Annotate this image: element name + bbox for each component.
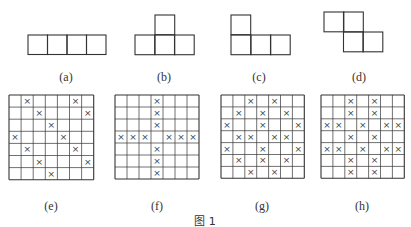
shape-label-b: (b) [157, 70, 171, 85]
x-mark-icon: × [371, 132, 379, 142]
x-mark-icon: × [189, 132, 197, 142]
x-mark-icon: × [283, 132, 291, 142]
x-mark-icon: × [359, 120, 367, 130]
x-mark-icon: × [347, 132, 355, 142]
grid-label-h: (h) [355, 199, 369, 214]
x-mark-icon: × [359, 144, 367, 154]
shape-cell [175, 35, 195, 55]
shape-cell [324, 12, 344, 32]
shape-d [324, 12, 383, 52]
x-mark-icon: × [23, 144, 31, 154]
x-mark-icon: × [153, 168, 161, 178]
shape-b [135, 15, 194, 55]
grid-label-e: (e) [44, 199, 57, 214]
grid-label-g: (g) [255, 199, 269, 214]
x-mark-icon: × [259, 108, 267, 118]
x-mark-icon: × [247, 132, 255, 142]
x-mark-icon: × [235, 132, 243, 142]
x-mark-icon: × [153, 120, 161, 130]
x-mark-icon: × [259, 120, 267, 130]
shape-cell [271, 35, 291, 55]
x-mark-icon: × [35, 108, 43, 118]
shape-cell [48, 35, 68, 55]
shape-cell [28, 35, 48, 55]
grid-h: ×××××××××××××××××××× [321, 95, 404, 178]
x-mark-icon: × [395, 144, 403, 154]
x-mark-icon: × [259, 144, 267, 154]
x-mark-icon: × [335, 120, 343, 130]
x-mark-icon: × [235, 155, 243, 165]
x-mark-icon: × [129, 132, 137, 142]
x-mark-icon: × [165, 132, 173, 142]
x-mark-icon: × [117, 132, 125, 142]
x-mark-icon: × [153, 96, 161, 106]
x-mark-icon: × [60, 132, 68, 142]
x-mark-icon: × [235, 108, 243, 118]
shape-label-a: (a) [59, 70, 72, 85]
x-mark-icon: × [153, 156, 161, 166]
x-mark-icon: × [371, 108, 379, 118]
x-mark-icon: × [177, 132, 185, 142]
x-mark-icon: × [247, 167, 255, 177]
grid-f: ×××××××××××× [115, 95, 199, 179]
x-mark-icon: × [347, 167, 355, 177]
x-mark-icon: × [383, 144, 391, 154]
x-mark-icon: × [295, 144, 303, 154]
x-mark-icon: × [141, 132, 149, 142]
x-mark-icon: × [395, 120, 403, 130]
x-mark-icon: × [283, 108, 291, 118]
x-mark-icon: × [72, 96, 80, 106]
grid-g: ×××××××××××××××××××× [221, 95, 304, 178]
x-mark-icon: × [247, 96, 255, 106]
shape-cell [155, 15, 175, 35]
x-mark-icon: × [347, 108, 355, 118]
shape-cell [363, 32, 383, 52]
shape-cell [135, 35, 155, 55]
x-mark-icon: × [48, 169, 56, 179]
x-mark-icon: × [271, 132, 279, 142]
x-mark-icon: × [371, 96, 379, 106]
x-mark-icon: × [271, 96, 279, 106]
shape-cell [87, 35, 107, 55]
x-mark-icon: × [153, 108, 161, 118]
x-mark-icon: × [259, 155, 267, 165]
x-mark-icon: × [283, 155, 291, 165]
x-mark-icon: × [153, 144, 161, 154]
shape-cell [251, 35, 271, 55]
shape-cell [67, 35, 87, 55]
x-mark-icon: × [271, 167, 279, 177]
x-mark-icon: × [323, 120, 331, 130]
figure-canvas: ××××××××××××××××××××××××××××××××××××××××… [0, 0, 411, 227]
x-mark-icon: × [11, 132, 19, 142]
x-mark-icon: × [23, 96, 31, 106]
grid-e: ×××××××××××× [9, 95, 94, 180]
shape-cell [344, 12, 364, 32]
shape-c [231, 15, 290, 55]
x-mark-icon: × [323, 144, 331, 154]
shape-label-c: (c) [252, 70, 265, 85]
x-mark-icon: × [48, 120, 56, 130]
x-mark-icon: × [35, 157, 43, 167]
shape-cell [231, 35, 251, 55]
figure-caption: 图 1 [194, 212, 216, 227]
shape-cell [344, 32, 364, 52]
shape-cell [231, 15, 251, 35]
x-mark-icon: × [335, 144, 343, 154]
x-mark-icon: × [223, 144, 231, 154]
grid-label-f: (f) [151, 199, 163, 214]
shape-a [28, 35, 106, 55]
x-mark-icon: × [347, 96, 355, 106]
x-mark-icon: × [72, 144, 80, 154]
x-mark-icon: × [223, 120, 231, 130]
shape-cell [155, 35, 175, 55]
x-mark-icon: × [84, 157, 92, 167]
x-mark-icon: × [371, 167, 379, 177]
x-mark-icon: × [347, 155, 355, 165]
x-mark-icon: × [295, 120, 303, 130]
x-mark-icon: × [84, 108, 92, 118]
x-mark-icon: × [371, 155, 379, 165]
shape-label-d: (d) [352, 70, 366, 85]
x-mark-icon: × [383, 120, 391, 130]
